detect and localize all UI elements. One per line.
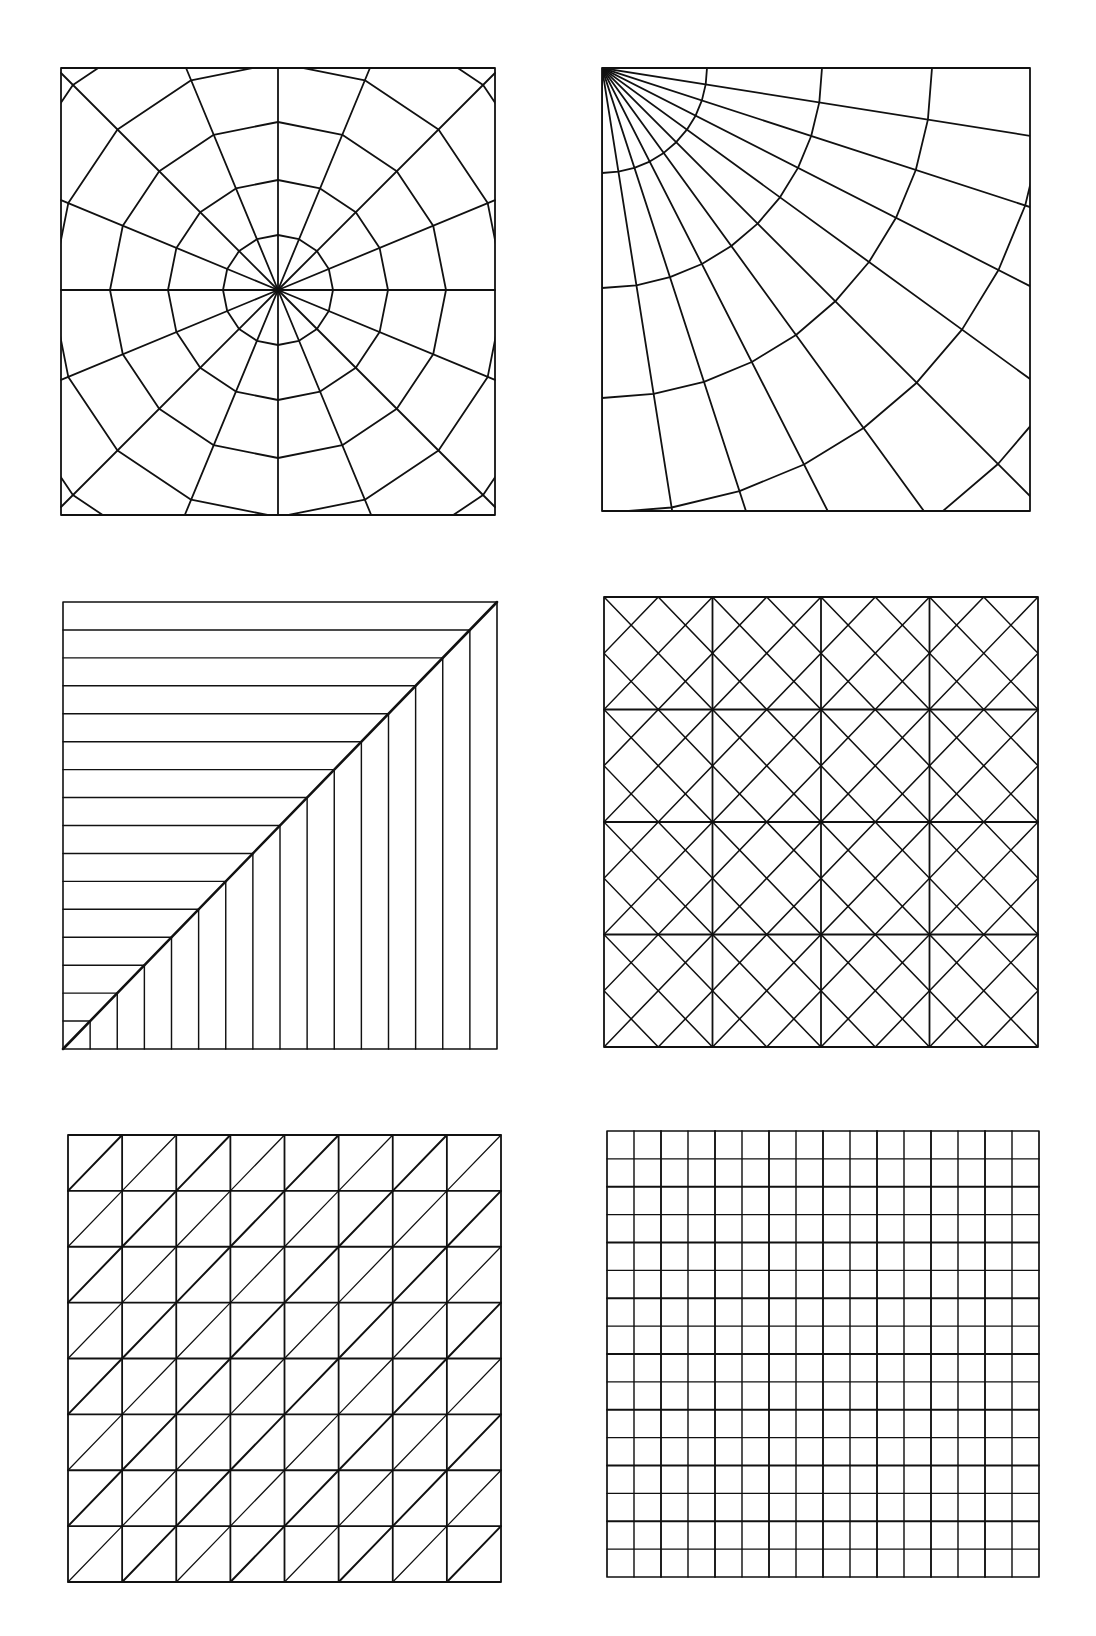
diagonal-split-drawing — [63, 602, 497, 1049]
panel-radial-web — [61, 68, 495, 515]
square-diamond-drawing — [604, 597, 1038, 1047]
panel-corner-fan — [602, 68, 1030, 511]
triangulated-grid-drawing — [68, 1135, 501, 1582]
panel-triangulated-grid — [68, 1135, 501, 1582]
radial-web-drawing — [61, 68, 495, 515]
fine-square-grid-drawing — [607, 1131, 1039, 1577]
panel-square-diamond — [604, 597, 1038, 1047]
panel-diagonal-split — [63, 602, 497, 1049]
panel-fine-square-grid — [607, 1131, 1039, 1577]
corner-fan-drawing — [602, 68, 1030, 511]
